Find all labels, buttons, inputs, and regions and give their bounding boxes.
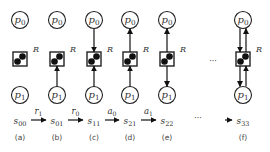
resource-token [93,53,100,60]
column-c: p0Rp1 [86,12,114,104]
state-columns: p0Rp1p0Rp1p0Rp1p0Rp1p0Rp1p0Rp1 [12,12,263,104]
resource-label: R [32,45,39,54]
resource-token [51,58,58,65]
ellipsis-bottom: ··· [194,114,202,123]
resource-allocation-diagram: p0Rp1p0Rp1p0Rp1p0Rp1p0Rp1p0Rp1 s00(a)s01… [0,0,270,152]
state-transition-row: s00(a)s01(b)s11(c)s21(d)s22(e)s33(f)r1r0… [14,106,250,142]
column-f: p0Rp1 [235,12,263,104]
resource-box [87,52,101,66]
resource-token [242,53,249,60]
caption-b: (b) [52,133,63,142]
state-label-a: s00 [14,116,27,128]
caption-a: (a) [15,133,26,142]
caption-f: (f) [239,133,248,142]
resource-box [13,52,27,66]
resource-token [161,58,168,65]
transition-label-c-d: a0 [108,106,117,117]
state-label-d: s21 [124,116,137,128]
caption-e: (e) [162,133,173,142]
resource-label: R [106,45,113,54]
resource-box [236,52,250,66]
resource-token [14,58,21,65]
resource-label: R [69,45,76,54]
state-label-c: s11 [88,116,101,128]
caption-c: (c) [89,133,99,142]
column-a: p0Rp1 [12,12,40,104]
resource-token [19,53,26,60]
transition-label-b-c: r0 [72,106,80,117]
resource-token [124,58,131,65]
resource-box [50,52,64,66]
caption-d: (d) [125,133,136,142]
resource-label: R [179,45,186,54]
state-label-f: s33 [237,116,250,128]
state-label-e: s22 [161,116,174,128]
resource-token [88,58,95,65]
resource-token [129,53,136,60]
resource-token [237,58,244,65]
column-d: p0Rp1 [122,12,150,104]
transition-label-d-e: a1 [144,106,153,117]
state-label-b: s01 [51,116,64,128]
column-b: p0Rp1 [49,12,77,104]
ellipsis-middle: ··· [209,57,217,66]
resource-token [166,53,173,60]
resource-label: R [142,45,149,54]
column-e: p0Rp1 [159,12,187,104]
resource-label: R [255,45,262,54]
transition-label-a-b: r1 [35,106,43,117]
resource-token [56,53,63,60]
resource-box [123,52,137,66]
resource-box [160,52,174,66]
